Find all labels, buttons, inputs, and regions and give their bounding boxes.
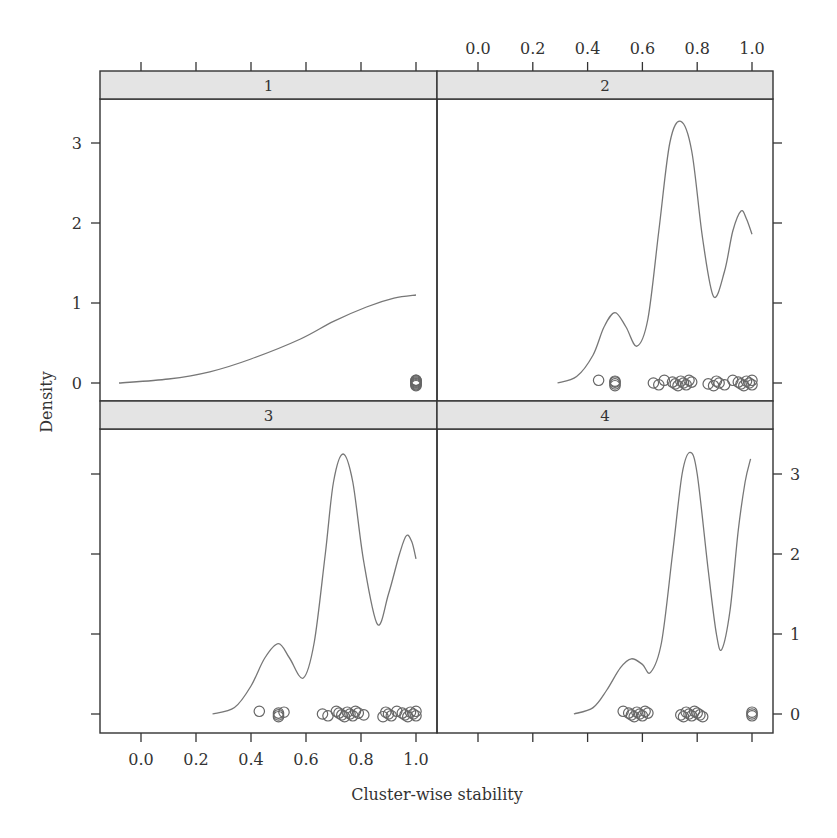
strip-label: 1	[264, 77, 274, 95]
panel-1: 1	[100, 71, 437, 401]
x-tick-label-top: 0.6	[630, 39, 655, 58]
data-point	[254, 706, 264, 716]
y-axis-title: Density	[37, 371, 56, 432]
x-tick-label-bottom: 0.4	[238, 750, 263, 769]
density-curve	[574, 452, 751, 714]
rug-points	[593, 375, 757, 391]
strip-label: 4	[600, 407, 610, 425]
panel-frame	[100, 99, 437, 401]
y-tick-label-left: 3	[72, 134, 82, 153]
strip-label: 2	[600, 77, 610, 95]
density-curve	[558, 121, 753, 383]
data-point	[593, 375, 603, 385]
y-tick-label-right: 2	[790, 545, 800, 564]
rug-points	[254, 706, 421, 722]
rug-points	[618, 706, 757, 722]
x-tick-label-top: 1.0	[739, 39, 764, 58]
panel-3: 3	[100, 401, 437, 733]
y-tick-label-right: 0	[790, 705, 800, 724]
x-tick-label-bottom: 0.6	[293, 750, 318, 769]
panel-4: 4	[437, 401, 773, 733]
x-axis-title: Cluster-wise stability	[351, 785, 523, 804]
panel-frame	[437, 429, 773, 733]
x-tick-label-top: 0.0	[465, 39, 490, 58]
y-tick-label-right: 3	[790, 465, 800, 484]
panel-2: 2	[437, 71, 773, 401]
panel-frame	[437, 99, 773, 401]
y-tick-label-left: 2	[72, 214, 82, 233]
x-tick-label-bottom: 1.0	[403, 750, 428, 769]
density-lattice-chart: 1234 0.00.20.40.60.81.00.00.20.40.60.81.…	[0, 0, 837, 838]
x-tick-label-bottom: 0.8	[348, 750, 373, 769]
x-tick-label-top: 0.2	[520, 39, 545, 58]
y-tick-label-left: 0	[72, 374, 82, 393]
y-tick-label-right: 1	[790, 625, 800, 644]
x-tick-label-top: 0.8	[684, 39, 709, 58]
x-tick-label-bottom: 0.0	[128, 750, 153, 769]
x-tick-label-bottom: 0.2	[183, 750, 208, 769]
density-curve	[213, 454, 417, 714]
density-curve	[119, 295, 416, 383]
panel-frame	[100, 429, 437, 733]
strip-label: 3	[264, 407, 274, 425]
x-tick-label-top: 0.4	[575, 39, 600, 58]
rug-points	[411, 375, 421, 391]
y-tick-label-left: 1	[72, 294, 82, 313]
